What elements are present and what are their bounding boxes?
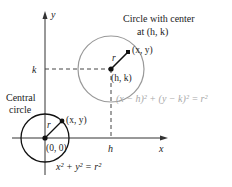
x-axis-label: x xyxy=(158,143,164,154)
central-point-label: (x, y) xyxy=(66,115,87,126)
central-title-line1: Central xyxy=(6,92,36,103)
central-radius-label: r xyxy=(47,120,51,130)
central-point-dot xyxy=(60,119,65,124)
shifted-center-label: (h, k) xyxy=(111,73,132,84)
shifted-equation: (x − h)² + (y − k)² = r² xyxy=(116,93,209,105)
shifted-point-marker xyxy=(126,50,130,54)
central-center-dot xyxy=(42,135,47,140)
h-label: h xyxy=(108,143,113,154)
circle-diagram: y x k h Circle with center at (h, k) (x,… xyxy=(0,0,232,187)
y-axis-arrow-icon xyxy=(43,11,48,19)
shifted-title-line2: at (h, k) xyxy=(137,26,168,38)
central-title-line2: circle xyxy=(9,104,32,115)
central-center-label: (0, 0) xyxy=(46,143,67,154)
y-axis-label: y xyxy=(50,9,56,20)
shifted-radius-label: r xyxy=(112,53,116,63)
shifted-title-line1: Circle with center xyxy=(123,13,195,24)
shifted-point-label: (x, y) xyxy=(132,45,153,56)
k-label: k xyxy=(32,64,37,75)
shifted-center-dot xyxy=(108,66,113,71)
central-equation: x² + y² = r² xyxy=(55,161,102,172)
x-axis-arrow-icon xyxy=(160,136,168,141)
